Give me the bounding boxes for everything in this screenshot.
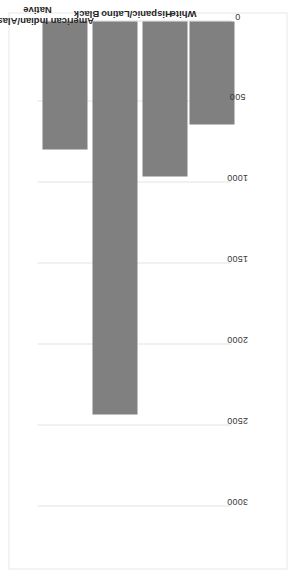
plot-area [37,20,231,506]
bar-hispanic-latino [142,21,187,176]
gridline-3000 [37,505,231,506]
tick-label-0: 0 [234,11,239,21]
tick-label-1000: 1000 [226,172,247,182]
tick-label-2500: 2500 [226,415,247,425]
tick-label-2000: 2000 [226,334,247,344]
bar-black [92,21,137,414]
chart-page: 3000 2500 2000 1500 1000 500 0 American … [0,0,295,581]
tick-label-500: 500 [229,91,245,101]
rotated-chart-canvas: 3000 2500 2000 1500 1000 500 0 American … [0,0,295,581]
gridline-2500 [37,424,231,425]
chart-frame: 3000 2500 2000 1500 1000 500 0 American … [8,12,287,569]
bar-white [189,21,234,124]
tick-label-1500: 1500 [226,253,247,263]
category-label-white: White [148,0,218,19]
bar-american-indian-alaskan-native [42,21,87,149]
tick-label-3000: 3000 [226,496,247,506]
